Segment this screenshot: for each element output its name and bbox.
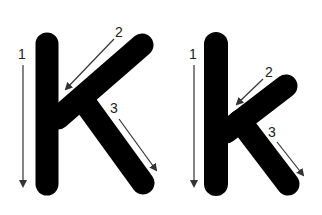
stroke-1-label: 1 — [18, 46, 26, 62]
stroke-2-label: 2 — [115, 24, 123, 40]
stroke-order-diagram: 1 2 3 1 2 3 — [0, 0, 322, 215]
stroke-3-label: 3 — [110, 100, 118, 116]
stroke-2-label: 2 — [265, 64, 273, 80]
stroke-3-label: 3 — [268, 124, 276, 140]
lowercase-k-lower-leg — [240, 121, 288, 184]
stroke-1-label: 1 — [189, 46, 197, 62]
uppercase-k-letter — [47, 44, 143, 184]
lowercase-k-letter — [216, 44, 288, 184]
